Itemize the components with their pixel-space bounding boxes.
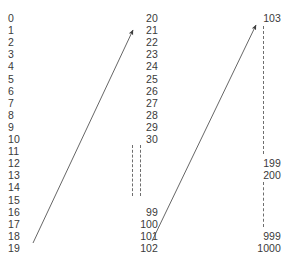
right-value-label: 999 <box>0 230 281 242</box>
number-columns-diagram: 012345678910111213141516171819 202122232… <box>0 0 288 258</box>
right-value-label: 103 <box>0 12 281 24</box>
right-value-label: 200 <box>0 169 281 181</box>
right-value-column: 1031992009991000 <box>0 0 288 258</box>
right-value-label: 199 <box>0 157 281 169</box>
right-ellipsis-lower <box>263 182 264 227</box>
right-value-label: 1000 <box>0 242 281 254</box>
right-ellipsis-upper <box>263 26 264 154</box>
